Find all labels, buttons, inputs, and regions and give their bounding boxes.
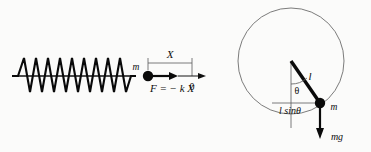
figure-canvas: m X F = − k X 0 l (0, 0, 371, 152)
displacement-label: X (166, 48, 175, 60)
rod-length-label: l (308, 70, 311, 82)
physics-figure: m X F = − k X 0 l (0, 0, 371, 152)
origin-label: 0 (190, 81, 195, 92)
restoring-force-arrow (150, 72, 178, 80)
angle-label: θ (295, 85, 300, 96)
weight-vector-arrow (316, 105, 324, 139)
pendulum-rod (291, 61, 320, 103)
pendulum-diagram-group: l θ l sinθ m mg (238, 8, 344, 142)
weight-label: mg (331, 131, 343, 142)
spring-mass-label: m (133, 62, 140, 72)
spring-coil (12, 58, 136, 92)
pendulum-mass-label: m (331, 102, 338, 112)
horizontal-component-label: l sinθ (279, 105, 301, 116)
restoring-force-label: F = − k X (149, 82, 195, 94)
spring-diagram-group: m X F = − k X 0 (12, 48, 206, 94)
